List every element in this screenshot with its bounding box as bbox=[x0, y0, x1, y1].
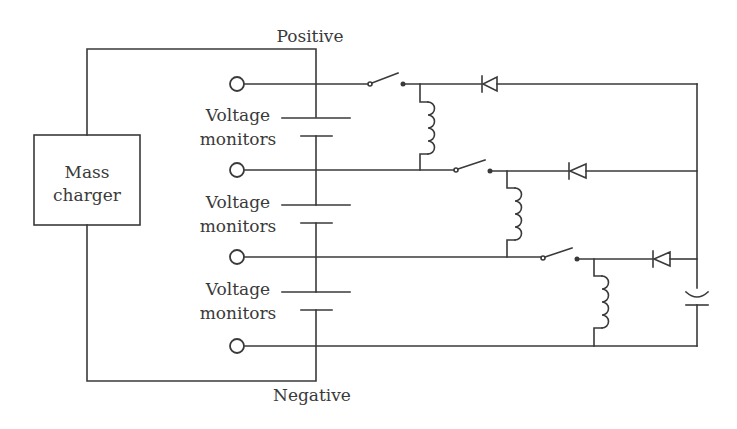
voltage-monitor-label-3a: Voltage bbox=[205, 279, 270, 299]
negative-label: Negative bbox=[273, 385, 351, 405]
terminal-2 bbox=[230, 163, 244, 177]
voltage-monitor-label-1a: Voltage bbox=[205, 105, 270, 125]
terminal-1 bbox=[230, 77, 244, 91]
terminal-3 bbox=[230, 250, 244, 264]
charger-label-line1: Mass bbox=[65, 162, 110, 182]
stage-3 bbox=[245, 248, 697, 346]
battery-cell-2 bbox=[282, 205, 350, 292]
voltage-monitor-label-2a: Voltage bbox=[205, 192, 270, 212]
terminal-4 bbox=[230, 339, 244, 353]
inductor-2-icon bbox=[515, 188, 522, 240]
inductor-3-icon bbox=[602, 276, 609, 328]
capacitor-curved-plate bbox=[686, 292, 708, 297]
positive-bus-wire bbox=[87, 49, 316, 135]
switch-1-blade bbox=[372, 73, 398, 83]
diode-2-icon bbox=[570, 164, 586, 178]
stage-1 bbox=[245, 73, 697, 170]
voltage-monitor-label-2b: monitors bbox=[200, 216, 277, 236]
output-rail bbox=[686, 84, 708, 346]
circuit-diagram: Mass charger Positive Negative Voltage m… bbox=[0, 0, 737, 429]
charger-label-line2: charger bbox=[53, 185, 122, 205]
positive-label: Positive bbox=[276, 26, 343, 46]
battery-cell-1 bbox=[282, 118, 350, 205]
switch-2-blade bbox=[458, 160, 485, 169]
battery-cell-3 bbox=[282, 292, 350, 310]
diode-1-icon bbox=[483, 77, 497, 91]
voltage-monitor-label-3b: monitors bbox=[200, 303, 277, 323]
diode-3-icon bbox=[654, 252, 670, 266]
stage-2 bbox=[245, 160, 697, 257]
switch-3-blade bbox=[545, 248, 572, 257]
inductor-1-icon bbox=[428, 102, 435, 154]
voltage-monitor-label-1b: monitors bbox=[200, 129, 277, 149]
